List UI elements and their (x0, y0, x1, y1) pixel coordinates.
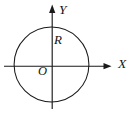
x-axis-arrow-icon (104, 63, 112, 69)
y-axis-label: Y (59, 3, 67, 17)
radius-circle (14, 27, 89, 102)
origin-label: O (38, 65, 47, 78)
geometry-figure: Y X R O (0, 0, 137, 114)
y-axis-arrow-icon (49, 5, 55, 14)
coordinate-diagram-canvas (0, 0, 137, 114)
x-axis-label: X (118, 57, 126, 71)
radius-label: R (54, 33, 62, 46)
